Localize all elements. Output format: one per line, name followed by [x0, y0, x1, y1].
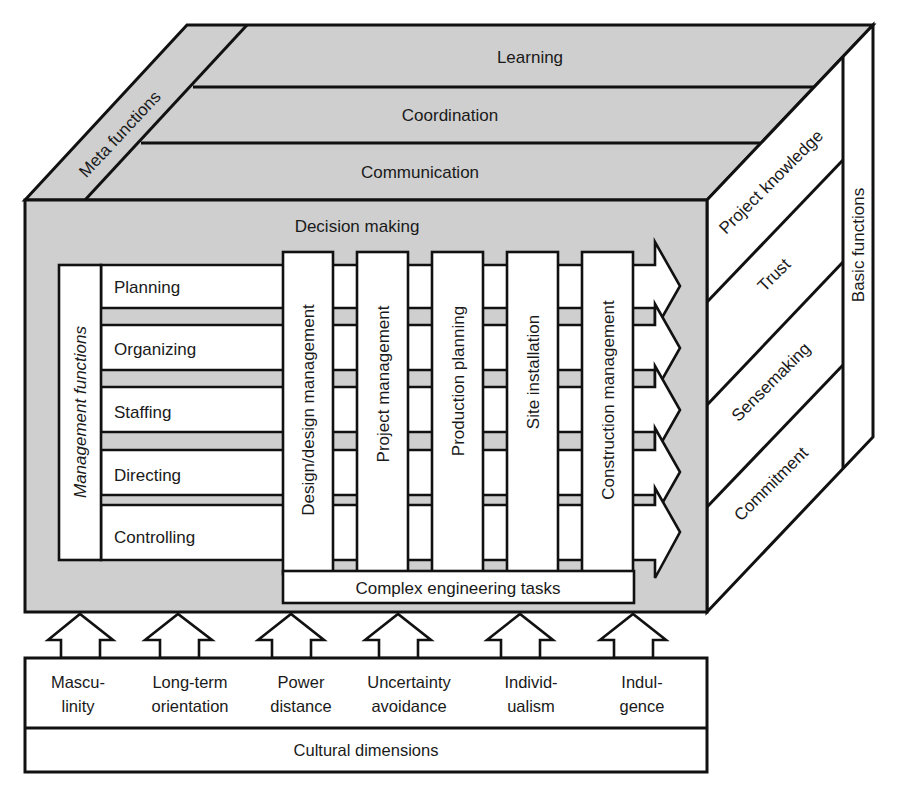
dimension-masculinity-line1: Mascu- [51, 673, 105, 691]
column-label-site-installation: Site installation [524, 315, 543, 429]
up-arrow-2 [145, 614, 212, 658]
layer-learning: Learning [497, 48, 563, 67]
up-arrow-1 [48, 614, 113, 658]
dimension-masculinity-line2: linity [61, 697, 95, 715]
cultural-dimensions: Mascu- linity Long-term orientation Powe… [25, 658, 707, 772]
column-label-project-management: Project management [374, 305, 393, 462]
dimension-individualism-line2: ualism [507, 697, 555, 715]
column-label-production-planning: Production planning [449, 306, 468, 456]
up-arrow-3 [258, 614, 324, 658]
dimension-uncertainty-line1: Uncertainty [367, 673, 451, 691]
layer-coordination: Coordination [402, 106, 498, 125]
row-planning: Planning [114, 278, 180, 297]
dimension-uncertainty-line2: avoidance [371, 697, 446, 715]
dimension-long-term-line2: orientation [151, 697, 228, 715]
basic-functions-label: Basic functions [849, 188, 868, 302]
row-directing: Directing [114, 466, 181, 485]
dimension-power-distance-line2: distance [270, 697, 331, 715]
front-face: Decision making Management functions Pla… [25, 200, 707, 612]
up-arrow-4 [365, 614, 431, 658]
dimension-power-distance-line1: Power [278, 673, 325, 691]
cultural-up-arrows [48, 614, 666, 658]
management-functions-label: Management functions [71, 326, 90, 498]
dimension-long-term-line1: Long-term [152, 673, 227, 691]
column-label-construction-management: Construction management [599, 300, 618, 500]
culture-cube-diagram: Meta functions Learning Coordination Com… [0, 0, 901, 788]
dimension-indulgence-line2: gence [620, 697, 665, 715]
dimension-indulgence-line1: Indul- [621, 673, 662, 691]
cultural-dimensions-label: Cultural dimensions [294, 741, 439, 759]
row-staffing: Staffing [114, 403, 171, 422]
up-arrow-5 [487, 614, 553, 658]
row-organizing: Organizing [114, 340, 196, 359]
dimension-individualism-line1: Individ- [504, 673, 557, 691]
row-controlling: Controlling [114, 528, 195, 547]
decision-making-label: Decision making [295, 217, 420, 236]
column-label-design-management: Design/design management [299, 304, 318, 516]
complex-engineering-tasks-label: Complex engineering tasks [355, 579, 560, 598]
layer-communication: Communication [361, 163, 479, 182]
up-arrow-6 [600, 614, 666, 658]
